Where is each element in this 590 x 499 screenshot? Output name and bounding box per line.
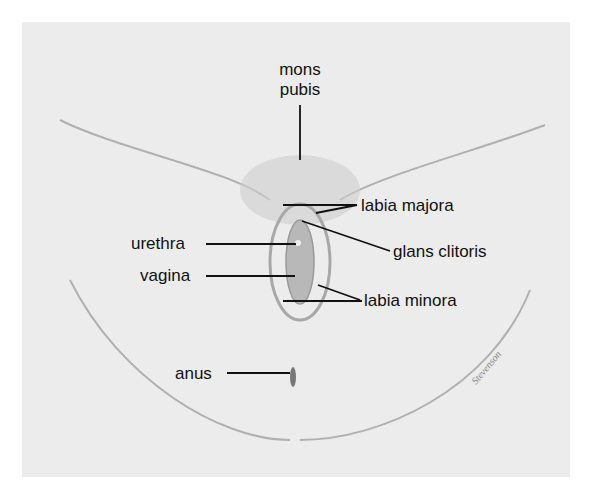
label-labia-minora: labia minora [364,291,457,311]
label-glans-clitoris: glans clitoris [393,242,487,262]
label-anus: anus [175,364,212,384]
inner-outline [286,220,314,304]
mons-region [240,155,360,225]
label-urethra: urethra [131,234,185,254]
label-pubis-line2: pubis [270,80,330,100]
urethra-marker [295,240,301,246]
diagram-canvas: Stevenson mons pubis labia majora glans … [0,0,590,499]
label-labia-majora: labia majora [361,196,454,216]
label-mons-line1: mons [270,60,330,80]
anus-marker [290,367,296,387]
artist-signature: Stevenson [469,349,503,387]
label-mons-pubis: mons pubis [270,60,330,100]
label-vagina: vagina [140,266,190,286]
